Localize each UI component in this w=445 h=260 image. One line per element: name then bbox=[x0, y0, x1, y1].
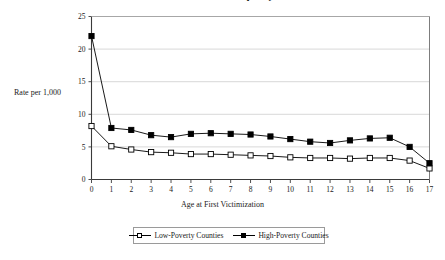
legend-item-low-poverty: Low-Poverty Counties bbox=[129, 231, 223, 240]
series-high-poverty-counties bbox=[89, 33, 432, 165]
svg-text:5: 5 bbox=[189, 185, 193, 194]
svg-text:0: 0 bbox=[82, 175, 86, 184]
svg-text:14: 14 bbox=[366, 185, 374, 194]
svg-text:10: 10 bbox=[287, 185, 295, 194]
svg-text:6: 6 bbox=[209, 185, 213, 194]
svg-text:15: 15 bbox=[78, 77, 86, 86]
legend-label-high-poverty: High-Poverty Counties bbox=[258, 231, 328, 240]
svg-text:16: 16 bbox=[406, 185, 414, 194]
svg-text:7: 7 bbox=[229, 185, 233, 194]
svg-text:8: 8 bbox=[249, 185, 253, 194]
x-axis-title: Age at First Victimization bbox=[0, 200, 445, 209]
plot-border bbox=[92, 17, 430, 180]
svg-text:15: 15 bbox=[386, 185, 394, 194]
legend-marker-open-square-icon bbox=[129, 232, 151, 240]
chart-container: Victimization Frequency Rate per 1,000 0… bbox=[0, 0, 445, 260]
svg-text:10: 10 bbox=[78, 110, 86, 119]
x-axis bbox=[92, 180, 430, 184]
svg-text:1: 1 bbox=[110, 185, 114, 194]
series-low-poverty-counties bbox=[89, 123, 432, 171]
svg-text:2: 2 bbox=[129, 185, 133, 194]
svg-text:13: 13 bbox=[346, 185, 354, 194]
svg-text:9: 9 bbox=[269, 185, 273, 194]
svg-text:5: 5 bbox=[82, 143, 86, 152]
y-axis bbox=[89, 17, 92, 180]
svg-text:20: 20 bbox=[78, 45, 86, 54]
gridlines bbox=[92, 17, 430, 147]
legend-marker-filled-square-icon bbox=[233, 232, 255, 240]
x-tick-labels: 01234567891011121314151617 bbox=[90, 185, 434, 194]
svg-text:25: 25 bbox=[78, 12, 86, 21]
svg-text:4: 4 bbox=[169, 185, 173, 194]
plot-area: 0510152025 01234567891011121314151617 bbox=[0, 0, 445, 260]
legend-label-low-poverty: Low-Poverty Counties bbox=[154, 231, 223, 240]
legend-item-high-poverty: High-Poverty Counties bbox=[233, 231, 328, 240]
svg-text:11: 11 bbox=[307, 185, 314, 194]
chart-legend: Low-Poverty Counties High-Poverty Counti… bbox=[133, 227, 325, 244]
svg-text:3: 3 bbox=[149, 185, 153, 194]
svg-text:0: 0 bbox=[90, 185, 94, 194]
svg-text:17: 17 bbox=[426, 185, 434, 194]
svg-text:12: 12 bbox=[326, 185, 334, 194]
y-tick-labels: 0510152025 bbox=[78, 12, 86, 184]
